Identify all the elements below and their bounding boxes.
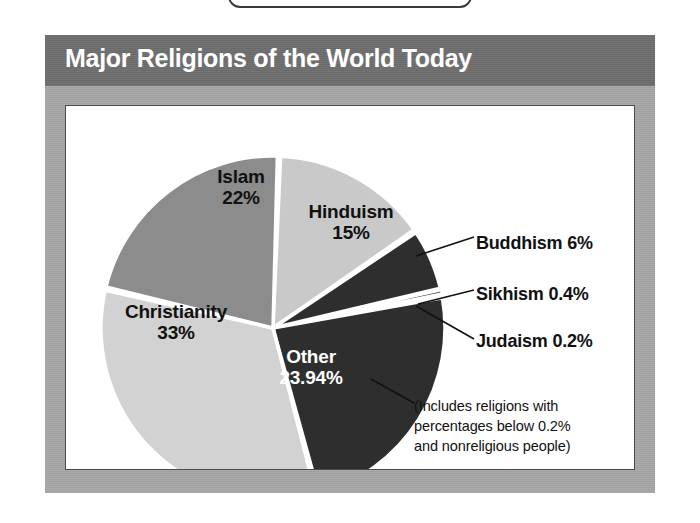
figure-frame: Major Religions of the World Today Islam… [45,35,655,493]
pie-callout-judaism: Judaism 0.2% [476,331,593,352]
top-border-fragment [228,0,472,8]
pie-label-islam: Islam 22% [186,166,296,209]
chart-footnote: (Includes religions with percentages bel… [414,396,629,456]
pie-label-hinduism-value: 15% [286,222,416,243]
pie-label-islam-value: 22% [186,187,296,208]
pie-callout-sikhism: Sikhism 0.4% [476,284,589,305]
pie-label-other-name: Other [286,346,336,367]
page-title: Major Religions of the World Today [65,44,472,73]
pie-label-christianity: Christianity 33% [86,301,266,344]
chart-plot-panel: Islam 22% Hinduism 15% Christianity 33% … [65,105,635,470]
pie-label-hinduism-name: Hinduism [309,201,394,222]
chart-title-bar: Major Religions of the World Today [45,35,655,86]
pie-callout-buddhism: Buddhism 6% [476,233,593,254]
pie-label-christianity-value: 33% [86,322,266,343]
pie-label-hinduism: Hinduism 15% [286,201,416,244]
chart-footnote-line-3: and nonreligious people) [414,436,629,456]
pie-label-other: Other 23.94% [251,346,371,389]
pie-label-islam-name: Islam [217,166,265,187]
pie-label-christianity-name: Christianity [125,301,227,322]
chart-footnote-line-1: (Includes religions with [414,396,629,416]
pie-label-other-value: 23.94% [251,367,371,388]
chart-footnote-line-2: percentages below 0.2% [414,416,629,436]
